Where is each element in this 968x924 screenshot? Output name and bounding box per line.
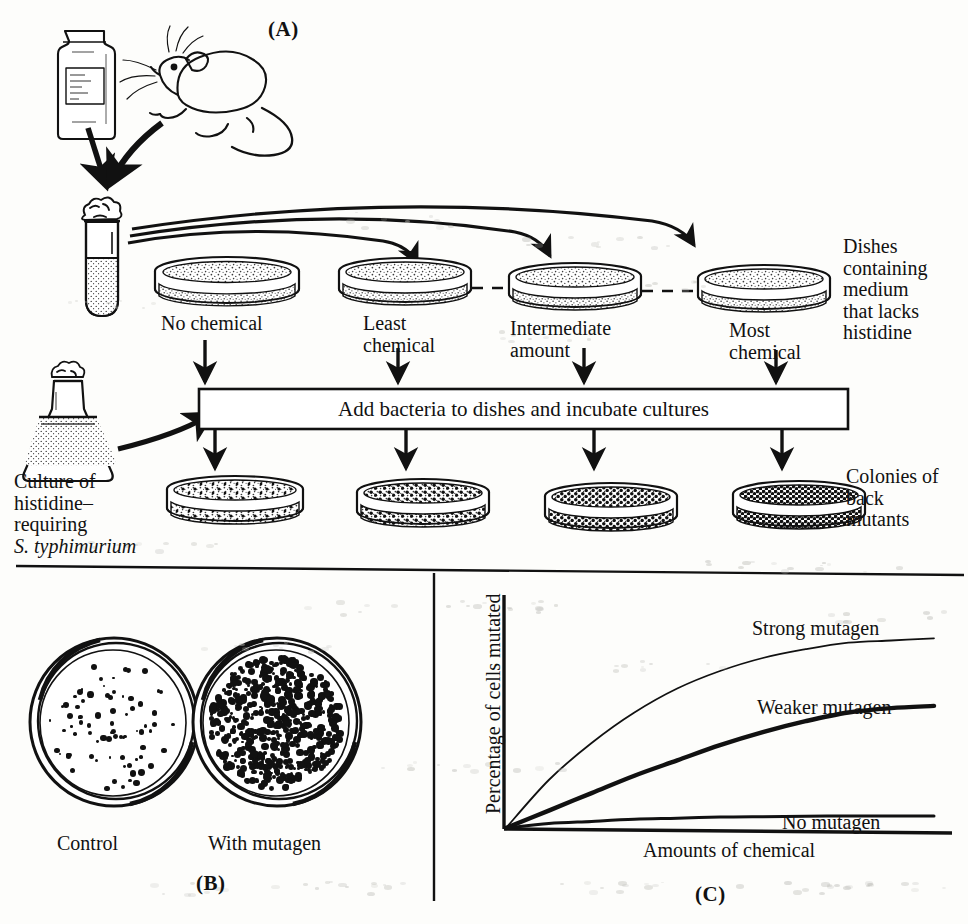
label-species-name: S. typhimurium	[14, 536, 136, 558]
to-process-arrow-group	[205, 340, 776, 382]
caption-control: Control	[57, 833, 118, 855]
test-tube-icon	[82, 197, 121, 316]
dish-label-intermediate-amount: Intermediate amount	[510, 318, 611, 361]
series-weaker-mutagen	[506, 706, 934, 828]
dish-label-most-chemical: Most chemical	[729, 320, 801, 363]
petri-dish-icon	[509, 263, 641, 310]
to-results-arrow-group	[215, 430, 782, 468]
chemical-bottle-icon	[58, 31, 115, 139]
flask-to-process-arrow	[118, 416, 208, 449]
chart-x-axis-label: Amounts of chemical	[643, 840, 815, 862]
panel-letter-b: (B)	[196, 872, 226, 895]
petri-dish-icon	[545, 483, 677, 531]
chart-series-label-weaker-mutagen: Weaker mutagen	[757, 697, 891, 719]
dish-label-no-chemical: No chemical	[161, 313, 263, 335]
petri-dish-row-results	[167, 476, 865, 531]
petri-dish-icon	[167, 476, 303, 524]
chart-series-label-strong-mutagen: Strong mutagen	[752, 618, 879, 640]
chart-series-label-no-mutagen: No mutagen	[782, 812, 880, 834]
note-colonies-of-back-mutants: Colonies of back mutants	[846, 466, 939, 531]
label-culture-of-histidine-requiring: Culture of histidine– requiring S. typhi…	[14, 471, 136, 557]
process-box-label: Add bacteria to dishes and incubate cult…	[199, 389, 848, 429]
distribution-arrow-group	[128, 207, 694, 263]
petri-dish-icon	[155, 257, 299, 306]
petri-dish-icon	[698, 265, 830, 312]
panel-letter-a: (A)	[268, 18, 299, 41]
chart-y-axis-label: Percentage of cells mutated	[482, 594, 505, 814]
caption-with-mutagen: With mutagen	[208, 833, 321, 855]
petri-dish-icon	[339, 258, 471, 305]
petri-dish-row-top	[155, 257, 830, 312]
note-dishes-medium-lacks-histidine: Dishes containing medium that lacks hist…	[843, 236, 927, 344]
erlenmeyer-flask-icon	[23, 362, 115, 481]
panel-letter-c: (C)	[695, 883, 726, 906]
ames-test-figure: (A) (B) (C) No chemical Least chemical I…	[0, 0, 968, 924]
dish-label-least-chemical: Least chemical	[363, 313, 435, 356]
petri-dish-icon	[357, 479, 489, 527]
